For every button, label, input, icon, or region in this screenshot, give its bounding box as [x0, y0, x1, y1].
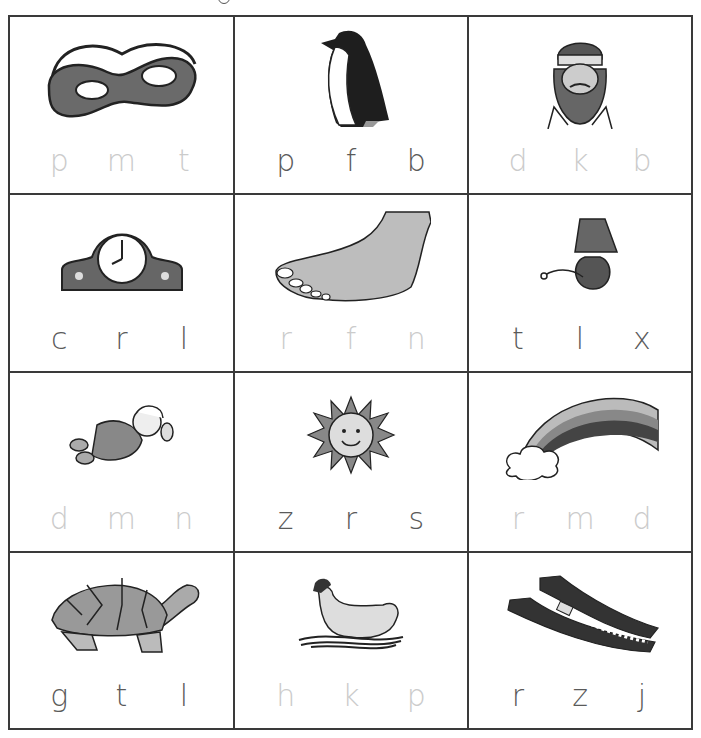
letter-choice[interactable]: f: [331, 319, 371, 359]
cell-lamp: t l x: [469, 195, 691, 373]
cell-zipper: r z j: [469, 553, 691, 728]
king-icon: [540, 29, 620, 129]
cell-turtle: g t l: [10, 553, 235, 728]
letter-choice[interactable]: r: [331, 499, 371, 539]
letter-choice[interactable]: k: [560, 141, 600, 181]
letter-choice[interactable]: t: [101, 676, 141, 716]
letter-choice[interactable]: f: [331, 141, 371, 181]
letter-choice[interactable]: x: [622, 319, 662, 359]
cell-mask: p m t: [10, 17, 235, 195]
foot-icon: [271, 207, 431, 307]
letter-choice[interactable]: d: [622, 499, 662, 539]
letter-choice[interactable]: t: [498, 319, 538, 359]
letter-choice[interactable]: m: [101, 499, 141, 539]
letter-choice[interactable]: g: [39, 676, 79, 716]
hen-icon: [291, 575, 411, 655]
letter-choice[interactable]: l: [560, 319, 600, 359]
cell-sun: z r s: [235, 373, 469, 553]
sun-icon: [306, 395, 396, 475]
letter-choice[interactable]: z: [266, 499, 306, 539]
letter-choice[interactable]: t: [164, 141, 204, 181]
letter-choice[interactable]: r: [266, 319, 306, 359]
letter-choice[interactable]: j: [622, 676, 662, 716]
cell-penguin: p f b: [235, 17, 469, 195]
letter-choice[interactable]: z: [560, 676, 600, 716]
clock-icon: [57, 222, 187, 292]
letter-choice[interactable]: k: [331, 676, 371, 716]
letter-choice[interactable]: m: [101, 141, 141, 181]
turtle-icon: [42, 570, 202, 660]
doll-icon: [67, 400, 177, 470]
letter-choice[interactable]: p: [39, 141, 79, 181]
letter-choice[interactable]: c: [39, 319, 79, 359]
cell-clock: c r l: [10, 195, 235, 373]
letter-choice[interactable]: r: [498, 499, 538, 539]
cell-foot: r f n: [235, 195, 469, 373]
letter-choice[interactable]: b: [396, 141, 436, 181]
letter-choice[interactable]: d: [498, 141, 538, 181]
letter-choice[interactable]: r: [101, 319, 141, 359]
letter-choice[interactable]: n: [164, 499, 204, 539]
cell-hen: h k p: [235, 553, 469, 728]
mask-icon: [37, 34, 207, 124]
letter-choice[interactable]: r: [498, 676, 538, 716]
letter-choice[interactable]: l: [164, 676, 204, 716]
letter-choice[interactable]: b: [622, 141, 662, 181]
letter-choice[interactable]: d: [39, 499, 79, 539]
zipper-icon: [500, 570, 660, 660]
letter-choice[interactable]: m: [560, 499, 600, 539]
worksheet-grid: p m t p f b d k b: [8, 15, 693, 730]
letter-choice[interactable]: s: [396, 499, 436, 539]
cropped-header-glyph: [218, 0, 230, 4]
lamp-icon: [535, 217, 625, 297]
letter-choice[interactable]: p: [266, 141, 306, 181]
cell-doll: d m n: [10, 373, 235, 553]
letter-choice[interactable]: h: [266, 676, 306, 716]
penguin-icon: [311, 25, 391, 133]
cell-rainbow: r m d: [469, 373, 691, 553]
letter-choice[interactable]: l: [164, 319, 204, 359]
rainbow-icon: [500, 390, 660, 480]
letter-choice[interactable]: p: [396, 676, 436, 716]
cell-king: d k b: [469, 17, 691, 195]
letter-choice[interactable]: n: [396, 319, 436, 359]
